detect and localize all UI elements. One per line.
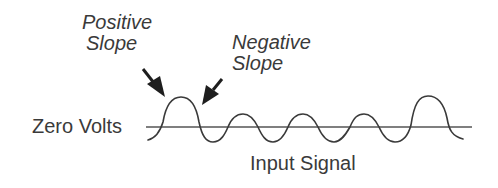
positive-slope-arrow-icon — [143, 69, 165, 97]
input-signal-waveform — [148, 96, 463, 142]
waveform-diagram — [0, 0, 498, 188]
negative-slope-arrow-icon — [202, 79, 222, 105]
